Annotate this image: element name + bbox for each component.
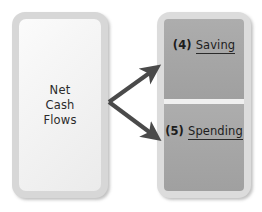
segment-spending: (5) Spending	[164, 104, 244, 191]
outcomes-box: (4) Saving (5) Spending	[157, 12, 251, 198]
segment-spending-word: Spending	[188, 124, 243, 140]
net-cash-flows-box: Net Cash Flows	[12, 12, 108, 198]
net-cash-flows-label: Net Cash Flows	[43, 83, 76, 128]
segment-saving-word: Saving	[196, 38, 236, 54]
net-cash-flows-box-inner: Net Cash Flows	[19, 19, 101, 191]
arrow-to-saving-icon	[109, 72, 152, 103]
segment-saving-label: (4) Saving	[173, 38, 235, 54]
arrow-to-spending-icon	[109, 102, 152, 134]
outcomes-box-inner: (4) Saving (5) Spending	[164, 19, 244, 191]
segment-spending-number: (5)	[165, 124, 184, 138]
segment-spending-label: (5) Spending	[165, 124, 243, 140]
segment-saving-number: (4)	[173, 38, 192, 52]
segment-saving: (4) Saving	[164, 19, 244, 99]
diagram-canvas: Net Cash Flows (4) Saving (5) Spending	[0, 0, 262, 212]
